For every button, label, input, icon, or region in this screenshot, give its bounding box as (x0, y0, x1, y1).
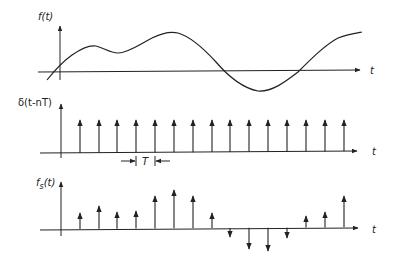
bot-x-label: t (372, 224, 377, 235)
period-label: T (142, 156, 149, 167)
panel-sampled-signal: fs(t) t (36, 177, 377, 251)
panel-impulse-train: δ(t-nT) t T (18, 97, 377, 167)
top-x-label: t (370, 65, 375, 76)
bot-y-label: fs(t) (36, 177, 55, 191)
top-x-axis (38, 70, 360, 72)
bot-x-axis (40, 228, 358, 230)
impulse-arrows (80, 120, 344, 153)
top-y-label: f(t) (38, 11, 53, 22)
mid-y-label: δ(t-nT) (18, 97, 52, 108)
sampling-diagram: f(t) t δ(t-nT) t T fs(t) t (0, 0, 396, 262)
mid-x-axis (40, 151, 357, 153)
panel-continuous-signal: f(t) t (38, 11, 375, 91)
signal-curve (47, 32, 362, 91)
sample-arrows (80, 190, 344, 251)
period-marker: T (121, 156, 170, 167)
mid-x-label: t (372, 146, 377, 157)
